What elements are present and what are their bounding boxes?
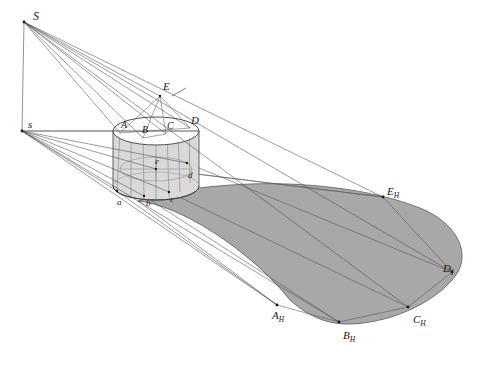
label-E-H: EH	[387, 186, 399, 200]
e-tick-mark	[172, 88, 186, 96]
label-A-H: AH	[272, 310, 284, 324]
label-d: d	[188, 171, 193, 180]
label-E: E	[163, 81, 170, 92]
figure-svg	[0, 0, 483, 365]
label-D-H: DI	[443, 263, 453, 277]
label-B-H: BH	[343, 330, 355, 344]
label-e: e	[155, 157, 159, 166]
label-b: b	[146, 199, 151, 208]
label-B: B	[142, 125, 148, 135]
label-c: c	[170, 195, 174, 204]
label-D: D	[191, 115, 199, 126]
label-S: S	[33, 10, 39, 22]
perspective-cylinder-shadow-figure: S s E A B C D e d a b c EH DI CH BH AH	[0, 0, 483, 365]
label-s: s	[28, 119, 32, 130]
label-A: A	[121, 120, 127, 130]
label-a: a	[117, 198, 122, 207]
label-C: C	[167, 121, 174, 131]
vertical-connector-S-s	[22, 22, 24, 131]
label-C-H: CH	[413, 314, 426, 328]
